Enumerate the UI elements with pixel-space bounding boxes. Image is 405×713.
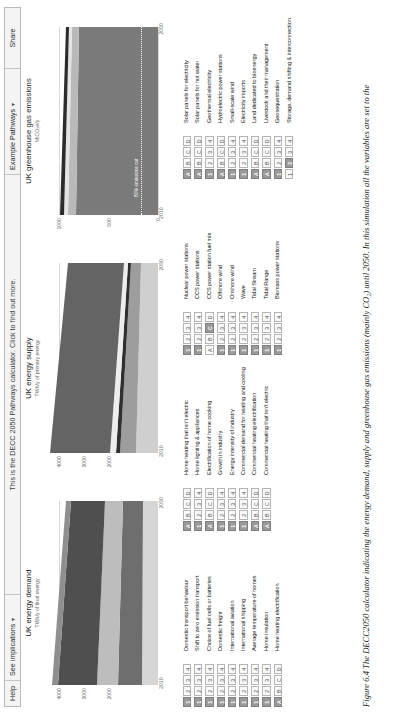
lever-level-selector[interactable]: 1234 — [251, 311, 259, 355]
lever-level-selector[interactable]: ABCD — [183, 135, 191, 179]
lever-level-button[interactable]: 4 — [251, 312, 259, 322]
lever-level-button[interactable]: 3 — [183, 675, 191, 685]
lever-level-button[interactable]: 2 — [239, 334, 247, 344]
lever-level-button[interactable]: B — [205, 510, 213, 520]
lever-level-button[interactable]: 3 — [217, 323, 225, 333]
lever-level-button[interactable]: A — [217, 169, 225, 179]
lever-level-selector[interactable]: 1234 — [194, 663, 202, 707]
lever-level-button[interactable]: 4 — [194, 664, 202, 674]
lever-level-selector[interactable]: 1234 — [194, 311, 202, 355]
lever-level-button[interactable]: B — [251, 510, 259, 520]
lever-level-button[interactable]: 4 — [285, 136, 293, 146]
lever-level-selector[interactable]: 1234 — [274, 311, 282, 355]
lever-level-button[interactable]: 3 — [274, 323, 282, 333]
lever-level-selector[interactable]: 1234 — [205, 663, 213, 707]
lever-level-button[interactable]: 4 — [251, 664, 259, 674]
lever-level-selector[interactable]: 1234 — [183, 663, 191, 707]
lever-level-button[interactable]: C — [183, 499, 191, 509]
lever-level-button[interactable]: 3 — [194, 323, 202, 333]
lever-level-button[interactable]: A — [274, 697, 282, 707]
lever-level-button[interactable]: 3 — [251, 323, 259, 333]
lever-level-button[interactable]: 1 — [228, 169, 236, 179]
lever-level-selector[interactable]: 1234 — [274, 135, 282, 179]
lever-level-button[interactable]: B — [183, 510, 191, 520]
lever-level-button[interactable]: 4 — [262, 664, 270, 674]
lever-level-button[interactable]: B — [262, 510, 270, 520]
lever-level-button[interactable]: B — [205, 334, 213, 344]
lever-level-button[interactable]: D — [183, 136, 191, 146]
lever-level-button[interactable]: C — [251, 499, 259, 509]
lever-level-button[interactable]: 3 — [274, 147, 282, 157]
lever-level-button[interactable]: D — [262, 488, 270, 498]
lever-level-button[interactable]: 4 — [239, 664, 247, 674]
lever-level-button[interactable]: 3 — [194, 499, 202, 509]
lever-level-button[interactable]: C — [262, 147, 270, 157]
lever-level-button[interactable]: 4 — [228, 488, 236, 498]
lever-level-button[interactable]: 1 — [194, 697, 202, 707]
lever-level-button[interactable]: 1 — [228, 521, 236, 531]
lever-level-button[interactable]: 3 — [239, 323, 247, 333]
lever-level-button[interactable]: 3 — [228, 147, 236, 157]
lever-level-button[interactable]: 1 — [217, 521, 225, 531]
lever-level-button[interactable]: 4 — [228, 664, 236, 674]
lever-level-button[interactable]: D — [251, 136, 259, 146]
lever-level-button[interactable]: 4 — [274, 312, 282, 322]
help-button[interactable]: Help — [5, 680, 20, 706]
lever-level-button[interactable]: A — [205, 345, 213, 355]
lever-level-button[interactable]: 1 — [274, 169, 282, 179]
lever-level-button[interactable]: 4 — [239, 312, 247, 322]
lever-level-button[interactable]: 1 — [262, 345, 270, 355]
lever-level-button[interactable]: 2 — [228, 686, 236, 696]
lever-level-button[interactable]: 2 — [217, 334, 225, 344]
lever-level-selector[interactable]: ABCD — [262, 487, 270, 531]
lever-level-selector[interactable]: 1234 — [217, 311, 225, 355]
lever-level-button[interactable]: A — [262, 169, 270, 179]
lever-level-button[interactable]: 3 — [251, 675, 259, 685]
lever-level-button[interactable]: 3 — [228, 675, 236, 685]
lever-level-button[interactable]: 3 — [205, 147, 213, 157]
lever-level-selector[interactable]: 1234 — [183, 311, 191, 355]
lever-level-button[interactable]: 4 — [217, 488, 225, 498]
lever-level-button[interactable]: C — [274, 675, 282, 685]
lever-level-button[interactable]: 1 — [239, 345, 247, 355]
lever-level-button[interactable]: D — [205, 488, 213, 498]
lever-level-button[interactable]: 4 — [183, 312, 191, 322]
lever-level-button[interactable]: 1 — [183, 345, 191, 355]
lever-level-button[interactable]: 1 — [274, 345, 282, 355]
see-implications-menu[interactable]: See implications▾ — [5, 594, 20, 680]
lever-level-button[interactable]: D — [262, 136, 270, 146]
lever-level-button[interactable]: D — [251, 488, 259, 498]
lever-level-button[interactable]: B — [194, 158, 202, 168]
lever-level-button[interactable]: 1 — [239, 521, 247, 531]
lever-level-button[interactable]: C — [205, 499, 213, 509]
lever-level-button[interactable]: 4 — [205, 136, 213, 146]
lever-level-button[interactable]: 2 — [217, 686, 225, 696]
lever-level-button[interactable]: 4 — [183, 664, 191, 674]
lever-level-button[interactable]: 2 — [183, 334, 191, 344]
lever-level-button[interactable]: C — [205, 323, 213, 333]
example-pathways-menu[interactable]: Example Pathways▾ — [5, 68, 20, 174]
lever-level-button[interactable]: 1 — [205, 697, 213, 707]
lever-level-button[interactable]: 2 — [285, 158, 293, 168]
lever-level-button[interactable]: 2 — [228, 158, 236, 168]
lever-level-button[interactable]: 3 — [228, 499, 236, 509]
lever-level-button[interactable]: 1 — [194, 521, 202, 531]
lever-level-selector[interactable]: ABCD — [262, 135, 270, 179]
lever-level-button[interactable]: 4 — [217, 312, 225, 322]
lever-level-button[interactable]: 2 — [217, 510, 225, 520]
lever-level-button[interactable]: 2 — [251, 686, 259, 696]
lever-level-selector[interactable]: 1234 — [239, 487, 247, 531]
lever-level-button[interactable]: A — [194, 169, 202, 179]
lever-level-button[interactable]: 3 — [217, 499, 225, 509]
lever-level-button[interactable]: C — [194, 147, 202, 157]
lever-level-button[interactable]: 4 — [205, 664, 213, 674]
lever-level-button[interactable]: C — [251, 147, 259, 157]
lever-level-button[interactable]: C — [217, 147, 225, 157]
lever-level-button[interactable]: 1 — [251, 697, 259, 707]
lever-level-button[interactable]: 2 — [262, 686, 270, 696]
lever-level-button[interactable]: 3 — [194, 675, 202, 685]
lever-level-button[interactable]: 2 — [274, 334, 282, 344]
lever-level-button[interactable]: 1 — [194, 345, 202, 355]
lever-level-button[interactable]: 1 — [251, 345, 259, 355]
lever-level-button[interactable]: 2 — [228, 334, 236, 344]
